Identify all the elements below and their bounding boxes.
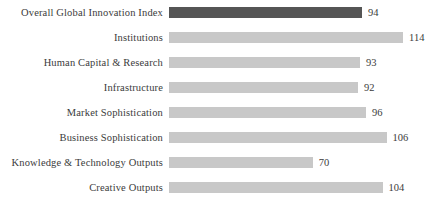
category-label: Infrastructure bbox=[0, 82, 163, 94]
category-label: Creative Outputs bbox=[0, 182, 163, 194]
bar-track: 114 bbox=[169, 25, 443, 50]
bar-value-label: 104 bbox=[389, 181, 405, 194]
bar-chart: Overall Global Innovation Index94Institu… bbox=[0, 0, 443, 201]
bar-track: 104 bbox=[169, 175, 443, 200]
bar-row: Human Capital & Research93 bbox=[0, 50, 443, 75]
bar-rows-container: Overall Global Innovation Index94Institu… bbox=[0, 0, 443, 201]
bar-track: 106 bbox=[169, 125, 443, 150]
bar-track: 70 bbox=[169, 150, 443, 175]
bar-row: Institutions114 bbox=[0, 25, 443, 50]
bar-value-label: 93 bbox=[366, 56, 377, 69]
bar bbox=[169, 82, 358, 93]
bar-track: 92 bbox=[169, 75, 443, 100]
bar-row: Market Sophistication96 bbox=[0, 100, 443, 125]
category-label: Human Capital & Research bbox=[0, 57, 163, 69]
bar bbox=[169, 107, 366, 118]
bar-row: Infrastructure92 bbox=[0, 75, 443, 100]
bar-row: Business Sophistication106 bbox=[0, 125, 443, 150]
bar-value-label: 106 bbox=[393, 131, 409, 144]
bar-value-label: 70 bbox=[319, 156, 330, 169]
bar bbox=[169, 7, 362, 18]
bar-row: Creative Outputs104 bbox=[0, 175, 443, 200]
bar-value-label: 114 bbox=[409, 31, 424, 44]
bar bbox=[169, 32, 403, 43]
bar bbox=[169, 157, 313, 168]
bar-value-label: 96 bbox=[372, 106, 383, 119]
category-label: Business Sophistication bbox=[0, 132, 163, 144]
bar-track: 94 bbox=[169, 0, 443, 25]
bar bbox=[169, 57, 360, 68]
category-label: Overall Global Innovation Index bbox=[0, 7, 163, 19]
bar-track: 96 bbox=[169, 100, 443, 125]
category-label: Institutions bbox=[0, 32, 163, 44]
bar-row: Overall Global Innovation Index94 bbox=[0, 0, 443, 25]
bar-row: Knowledge & Technology Outputs70 bbox=[0, 150, 443, 175]
bar-track: 93 bbox=[169, 50, 443, 75]
category-label: Knowledge & Technology Outputs bbox=[0, 157, 163, 169]
bar-value-label: 92 bbox=[364, 81, 375, 94]
bar bbox=[169, 182, 383, 193]
bar-value-label: 94 bbox=[368, 6, 379, 19]
category-label: Market Sophistication bbox=[0, 107, 163, 119]
bar bbox=[169, 132, 387, 143]
